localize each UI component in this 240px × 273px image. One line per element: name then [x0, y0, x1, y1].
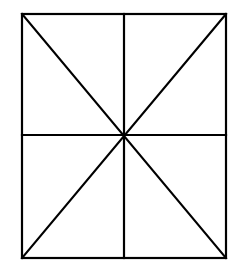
geometry-diagram [0, 0, 240, 273]
